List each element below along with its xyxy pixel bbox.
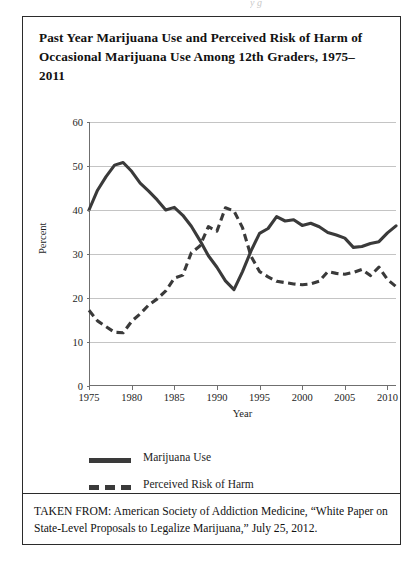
x-tick-mark: [260, 386, 261, 390]
y-tick-label: 50: [43, 161, 83, 172]
x-tick-mark: [132, 386, 133, 390]
x-axis-ticks: 19751980198519901995200020052010: [89, 386, 396, 410]
y-tick-mark: [87, 254, 90, 255]
x-tick-label: 2000: [279, 392, 325, 403]
legend-item-marijuana-use: Marijuana Use: [89, 450, 389, 477]
y-tick-label: 30: [43, 249, 83, 260]
x-tick-label: 1975: [66, 392, 112, 403]
x-tick-mark: [217, 386, 218, 390]
x-tick-label: 1995: [237, 392, 283, 403]
x-tick-label: 2010: [364, 392, 410, 403]
x-tick-label: 1985: [151, 392, 197, 403]
y-tick-label: 10: [43, 337, 83, 348]
y-tick-mark: [87, 210, 90, 211]
legend-label-marijuana-use: Marijuana Use: [143, 451, 211, 463]
chart-legend: Marijuana Use Perceived Risk of Harm: [89, 450, 389, 504]
x-tick-mark: [302, 386, 303, 390]
y-tick-mark: [87, 298, 90, 299]
caption-divider: [23, 493, 400, 494]
chart-area: Percent 0102030405060 197519801985199019…: [23, 101, 402, 441]
x-tick-mark: [345, 386, 346, 390]
y-tick-label: 0: [43, 381, 83, 392]
legend-swatch-dashed-icon: [89, 485, 131, 490]
legend-swatch-solid-icon: [89, 458, 131, 463]
source-caption: TAKEN FROM: American Society of Addictio…: [34, 503, 390, 537]
x-axis-label: Year: [89, 408, 396, 419]
y-tick-mark: [87, 122, 90, 123]
figure-page: y g Past Year Marijuana Use and Perceive…: [0, 0, 416, 562]
series-lines: [89, 122, 396, 386]
y-tick-label: 60: [43, 117, 83, 128]
y-tick-mark: [87, 386, 90, 387]
x-tick-label: 2005: [322, 392, 368, 403]
x-tick-label: 1980: [109, 392, 155, 403]
y-tick-mark: [87, 342, 90, 343]
x-tick-label: 1990: [194, 392, 240, 403]
legend-label-perceived-risk: Perceived Risk of Harm: [143, 478, 254, 490]
y-tick-label: 40: [43, 205, 83, 216]
legend-item-perceived-risk: Perceived Risk of Harm: [89, 477, 389, 504]
page-top-sliver-text: y g: [250, 0, 410, 11]
y-tick-mark: [87, 166, 90, 167]
x-tick-mark: [174, 386, 175, 390]
figure-box: Past Year Marijuana Use and Perceived Ri…: [22, 16, 401, 545]
x-tick-mark: [387, 386, 388, 390]
figure-title: Past Year Marijuana Use and Perceived Ri…: [39, 28, 379, 85]
y-axis-ticks: 0102030405060: [39, 122, 83, 386]
y-tick-label: 20: [43, 293, 83, 304]
